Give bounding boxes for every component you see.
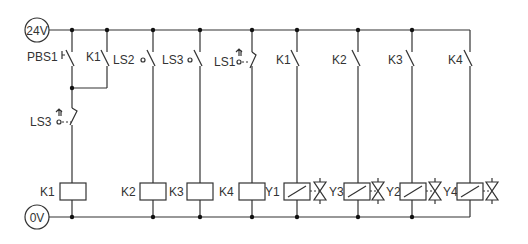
coil-k3 [187,183,213,200]
contact-label-k1-hold: K1 [86,50,101,64]
coil-label-k3: K3 [169,185,184,199]
actuator-arrow-icon [56,109,62,116]
ladder-diagram: 24V 0V PBS1 K1 LS3 K1 LS2 [0,0,528,244]
valve-label-y3: Y3 [329,185,344,199]
coil-k4 [239,183,265,200]
actuator-arrow-icon [236,49,242,56]
contact-label-ls3-nc: LS3 [30,115,52,129]
contact-label-ls2: LS2 [113,53,135,67]
supply-24v-label: 24V [26,24,47,38]
coil-k2 [140,183,166,200]
supply-0v-terminal: 0V [25,205,49,229]
contact-label-pbs1: PBS1 [27,50,58,64]
rung-2: LS2 K2 [113,30,166,217]
coil-label-k4: K4 [219,185,234,199]
pushbutton-icon [62,51,65,59]
contact-label-k4: K4 [448,53,463,67]
contact-label-ls3: LS3 [162,53,184,67]
rung-4: LS1 K4 [214,30,265,217]
supply-24v-terminal: 24V [25,18,49,42]
valve-icon [372,182,384,200]
contact-label-k2: K2 [332,53,347,67]
coil-label-k2: K2 [121,185,136,199]
valve-label-y2: Y2 [386,185,401,199]
coil-label-y1: Y1 [265,185,280,199]
coil-label-k1: K1 [40,185,55,199]
coil-k1 [60,183,86,200]
contact-label-k3: K3 [388,53,403,67]
valve-label-y4: Y4 [443,185,458,199]
rung-3: LS3 K3 [162,30,213,217]
supply-0v-label: 0V [30,211,45,225]
contact-label-ls1: LS1 [214,55,236,69]
rung-1: PBS1 K1 LS3 K1 [27,30,109,217]
contact-label-k1: K1 [276,53,291,67]
